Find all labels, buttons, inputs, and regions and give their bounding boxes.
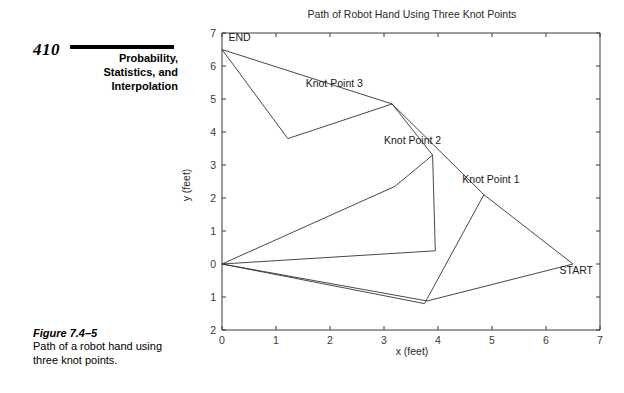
page-header: 410 Probability, Statistics, and Interpo… [0,18,200,88]
path-plot-svg: Path of Robot Hand Using Three Knot Poin… [176,0,624,370]
chart-title: Path of Robot Hand Using Three Knot Poin… [308,8,517,20]
y-tick-label: 4 [210,126,216,138]
annotation-knot-point-1: Knot Point 1 [462,173,519,185]
annotation-end: END [228,31,251,43]
axis-frame-path [222,33,600,330]
robot-hand-path-figure: Path of Robot Hand Using Three Knot Poin… [176,0,624,370]
y-tick-label: 0 [210,258,216,270]
y-tick-label: 1 [210,225,216,237]
annotation-start: START [560,264,594,276]
annotation-knot-point-2: Knot Point 2 [384,134,441,146]
x-axis-ticks: 01234567 [219,33,603,346]
header-rule [70,45,174,49]
y-tick-label: 1 [210,291,216,303]
chapter-title-line-2: Statistics, and [68,65,178,79]
figure-caption-line-1: Path of a robot hand using [33,340,193,354]
chapter-title: Probability, Statistics, and Interpolati… [68,51,178,93]
y-tick-label: 2 [210,192,216,204]
x-tick-label: 2 [327,334,333,346]
x-tick-label: 3 [381,334,387,346]
figure-caption-line-2: three knot points. [33,354,193,368]
figure-caption-label: Figure 7.4–5 [33,326,193,340]
x-tick-label: 7 [597,334,603,346]
annotation-knot-point-3: Knot Point 3 [306,77,363,89]
y-tick-label: 5 [210,93,216,105]
x-tick-label: 6 [543,334,549,346]
axis-frame [222,33,600,330]
annotation-group: ENDKnot Point 3Knot Point 2Knot Point 1S… [228,31,593,276]
path-series-group [222,50,573,304]
path-series-path-outer-upper [222,50,573,265]
x-tick-label: 4 [435,334,441,346]
x-tick-label: 5 [489,334,495,346]
y-tick-label: 6 [210,60,216,72]
chapter-title-line-1: Probability, [68,51,178,65]
path-series-path-mid-link [222,155,433,264]
y-tick-label: 2 [210,324,216,336]
y-tick-label: 3 [210,159,216,171]
page-number: 410 [33,40,60,60]
y-axis-title: y (feet) [180,169,192,202]
path-series-path-outer-lower [222,264,573,301]
y-axis-ticks: 2101234567 [210,27,600,336]
chapter-title-line-3: Interpolation [68,79,178,93]
x-axis-title: x (feet) [396,345,429,357]
x-tick-label: 1 [273,334,279,346]
x-tick-label: 0 [219,334,225,346]
figure-caption: Figure 7.4–5 Path of a robot hand using … [33,326,193,367]
y-tick-label: 7 [210,27,216,39]
